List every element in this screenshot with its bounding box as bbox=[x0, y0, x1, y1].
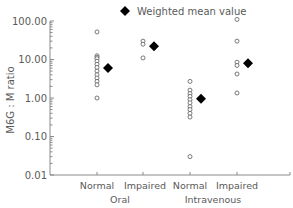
weighted-mean-diamond bbox=[149, 41, 159, 51]
x-category-label: Normal bbox=[173, 180, 207, 191]
legend: Weighted mean value bbox=[120, 6, 246, 17]
x-category-label: Impaired bbox=[216, 180, 258, 191]
data-point bbox=[188, 155, 192, 159]
data-point bbox=[141, 42, 145, 46]
data-point bbox=[95, 30, 99, 34]
weighted-mean-diamond bbox=[196, 94, 206, 104]
data-point bbox=[235, 39, 239, 43]
legend-label: Weighted mean value bbox=[137, 6, 246, 17]
data-point bbox=[235, 17, 239, 21]
data-point bbox=[235, 91, 239, 95]
y-tick-label: 1.00 bbox=[25, 93, 47, 104]
data-point bbox=[235, 72, 239, 76]
y-axis-title: M6G : M ratio bbox=[5, 66, 16, 133]
y-tick-label: 0.01 bbox=[25, 170, 47, 181]
x-axis: Normal Impaired Normal Impaired Oral Int… bbox=[50, 172, 290, 205]
data-point bbox=[141, 56, 145, 60]
data-point bbox=[95, 83, 99, 87]
x-category-label: Impaired bbox=[124, 180, 166, 191]
data-point bbox=[235, 63, 239, 67]
scatter-chart: Weighted mean value 100.0010.001.000.100… bbox=[0, 0, 293, 208]
weighted-mean-diamond bbox=[243, 58, 253, 68]
plot-area bbox=[95, 17, 253, 158]
data-point bbox=[188, 115, 192, 119]
y-tick-label: 10.00 bbox=[18, 54, 47, 65]
y-tick-label: 0.10 bbox=[25, 131, 47, 142]
data-point bbox=[188, 79, 192, 83]
x-category-label: Normal bbox=[80, 180, 114, 191]
y-axis: 100.0010.001.000.100.01 M6G : M ratio bbox=[5, 16, 54, 181]
y-major-ticks: 100.0010.001.000.100.01 bbox=[12, 16, 54, 181]
legend-diamond-icon bbox=[120, 6, 130, 16]
weighted-mean-diamond bbox=[103, 63, 113, 73]
data-point bbox=[95, 96, 99, 100]
y-tick-label: 100.00 bbox=[12, 16, 47, 27]
x-group-label-intravenous: Intravenous bbox=[185, 194, 242, 205]
x-group-label-oral: Oral bbox=[110, 194, 130, 205]
